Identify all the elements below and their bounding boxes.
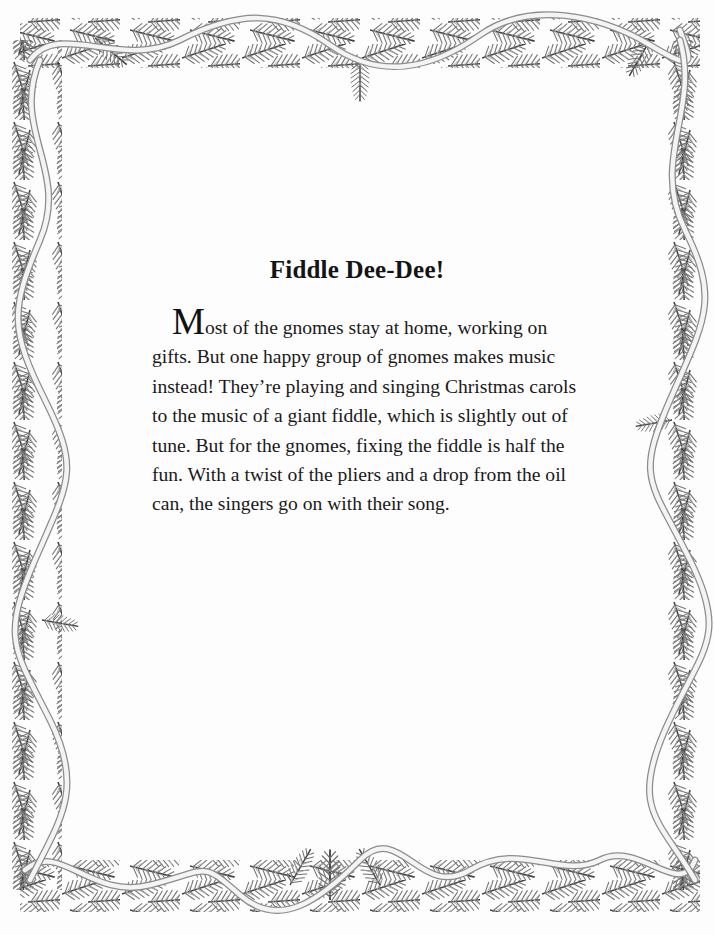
story-paragraph: Most of the gnomes stay at home, working… (152, 312, 572, 519)
storybook-page: Fiddle Dee-Dee! Most of the gnomes stay … (0, 0, 714, 935)
drop-cap: M (172, 301, 205, 342)
line-text: ost of the gnomes stay at home, working … (205, 317, 547, 338)
paragraph-line-7: can, the singers go on with their song. (152, 489, 572, 518)
story-title: Fiddle Dee-Dee! (0, 256, 714, 284)
paragraph-line-4: to the music of a giant fiddle, which is… (152, 401, 572, 430)
paragraph-line-5: tune. But for the gnomes, fixing the fid… (152, 431, 572, 460)
paragraph-line-3: instead! They’re playing and singing Chr… (152, 372, 572, 401)
paragraph-line-2: gifts. But one happy group of gnomes mak… (152, 342, 572, 371)
paragraph-line-1: Most of the gnomes stay at home, working… (152, 312, 572, 342)
paragraph-line-6: fun. With a twist of the pliers and a dr… (152, 460, 572, 489)
